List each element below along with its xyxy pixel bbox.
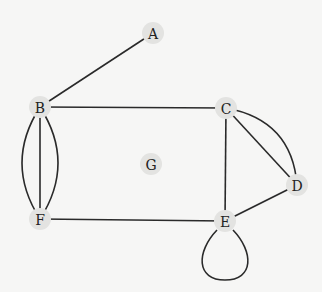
node-e: E <box>214 210 236 232</box>
node-label: B <box>35 100 45 116</box>
node-c: C <box>215 97 237 119</box>
edge-f-e <box>40 219 225 221</box>
edge-b-c <box>40 107 226 108</box>
edges <box>22 33 297 280</box>
graph-diagram: ABCDEFG <box>0 0 322 292</box>
node-label: D <box>291 178 302 194</box>
edge-b-f-left <box>22 107 40 219</box>
edge-c-e <box>225 108 226 221</box>
node-label: C <box>221 101 232 117</box>
node-label: F <box>35 212 45 228</box>
edge-e-loop <box>202 230 248 280</box>
edge-d-e <box>225 185 297 221</box>
node-b: B <box>29 96 51 118</box>
node-d: D <box>286 174 308 196</box>
node-a: A <box>142 22 164 44</box>
node-label: A <box>147 26 159 42</box>
node-label: E <box>220 214 230 230</box>
node-label: G <box>145 157 156 173</box>
node-f: F <box>29 208 51 230</box>
edge-b-f-right <box>40 107 58 219</box>
graph-svg: ABCDEFG <box>0 0 322 292</box>
edge-a-b <box>40 33 153 107</box>
node-g: G <box>140 153 162 175</box>
